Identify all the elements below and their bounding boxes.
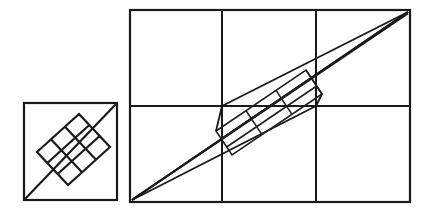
right-rectangle-figure — [130, 10, 410, 202]
right-ray-bl-to-mid-junction — [132, 106, 316, 200]
dissection-diagram — [0, 0, 428, 219]
right-sliver-row-1 — [221, 78, 311, 139]
figure-canvas: Two line-drawn figures: a square contain… — [0, 0, 428, 219]
left-square-figure — [24, 103, 117, 200]
right-sliver-row-2 — [227, 86, 317, 147]
